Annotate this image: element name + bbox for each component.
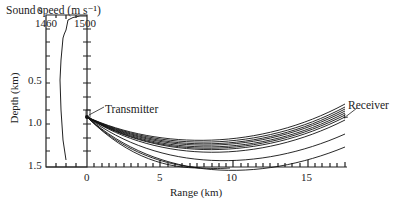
depth-ticks: [46, 29, 91, 151]
ray-diagram: [0, 0, 397, 204]
profile-panel-frame: [46, 15, 87, 167]
ray-paths: [87, 104, 345, 170]
sound-speed-profile-line: [60, 16, 87, 160]
